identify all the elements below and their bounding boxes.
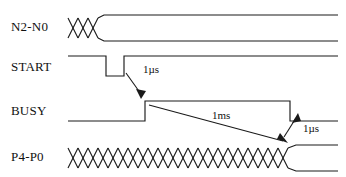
annotation-1-label: 1µs	[143, 63, 159, 75]
signal-label-p4-p0: P4-P0	[11, 149, 44, 164]
waveform-start	[68, 56, 338, 76]
bus-bottom-p4-p0	[288, 168, 338, 171]
signal-label-busy: BUSY	[11, 103, 47, 118]
annotation-busy-duration: 1ms	[149, 105, 288, 143]
waveform-p4-p0	[68, 145, 338, 171]
annotation-start-to-busy-delay: 1µs	[126, 63, 159, 99]
bus-x-crossings-p4-p0	[68, 148, 288, 168]
waveform-n2-n0	[68, 15, 338, 41]
bus-top-n2-n0	[98, 15, 338, 18]
annotation-3-label: 1µs	[303, 122, 319, 134]
start-signal-path	[68, 56, 338, 76]
bus-bottom-n2-n0	[98, 38, 338, 41]
annotation-2-arrow-head	[277, 133, 288, 143]
bus-top-p4-p0	[288, 145, 338, 148]
annotation-2-label: 1ms	[212, 109, 230, 121]
annotation-busy-fall-to-data-valid: 1µs	[284, 113, 319, 137]
bus-x-crossings-n2-n0	[68, 18, 98, 38]
timing-diagram-figure: N2-N0 START BUSY P4-P0	[0, 0, 346, 177]
annotation-1-arrow-head	[136, 89, 146, 99]
signal-label-start: START	[11, 59, 51, 74]
timing-diagram-canvas: N2-N0 START BUSY P4-P0	[0, 0, 346, 177]
signal-label-n2-n0: N2-N0	[11, 19, 48, 34]
